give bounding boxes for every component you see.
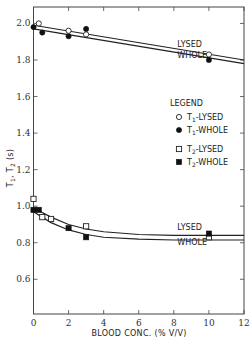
y-axis-label-text: T1, T2 (s) <box>6 149 16 188</box>
fit-line <box>34 25 245 60</box>
legend-marker <box>176 159 181 164</box>
data-point <box>31 25 36 30</box>
y-tick-label: 1.0 <box>16 201 31 211</box>
data-point <box>31 196 36 201</box>
data-point <box>84 32 89 37</box>
data-point <box>48 216 53 221</box>
y-tick-label: 2.0 <box>16 18 31 28</box>
legend-title: LEGEND <box>170 99 203 108</box>
legend: LEGENDT1-LYSEDT1-WHOLET2-LYSEDT2-WHOLE <box>170 99 228 168</box>
data-point <box>206 52 211 57</box>
fit-line <box>34 208 245 235</box>
y-tick-label: 1.2 <box>16 165 30 175</box>
x-tick-label: 10 <box>203 318 215 328</box>
legend-marker <box>176 114 181 119</box>
data-point <box>206 57 211 62</box>
line-annotation: LYSED <box>177 223 202 232</box>
x-tick-label: 12 <box>238 318 249 328</box>
x-tick-label: 0 <box>31 318 37 328</box>
data-point <box>31 207 36 212</box>
data-point <box>36 207 41 212</box>
y-tick-label: 1.4 <box>16 128 31 138</box>
y-tick-label: 0.6 <box>16 274 31 284</box>
x-tick-label: 6 <box>136 318 142 328</box>
data-point <box>66 34 71 39</box>
data-point <box>66 28 71 33</box>
chart: 0246810120.60.81.01.21.41.61.82.0 LYSEDW… <box>0 0 251 340</box>
line-annotation: WHOLE <box>177 51 207 60</box>
line-annotation: WHOLE <box>177 238 207 247</box>
x-tick-label: 4 <box>101 318 107 328</box>
legend-label: T1-WHOLE <box>186 126 228 136</box>
y-axis-label: T1, T2 (s) <box>6 149 16 188</box>
data-point <box>84 235 89 240</box>
data-point <box>84 224 89 229</box>
x-tick-label: 8 <box>171 318 177 328</box>
legend-label: T2-WHOLE <box>186 158 228 168</box>
data-point <box>66 226 71 231</box>
y-tick-label: 1.6 <box>16 92 31 102</box>
legend-marker <box>176 127 181 132</box>
x-axis-label: BLOOD CONC. (% V/V) <box>91 329 186 338</box>
y-tick-label: 0.8 <box>16 238 31 248</box>
data-point <box>40 215 45 220</box>
data-point <box>40 30 45 35</box>
legend-label: T2-LYSED <box>186 145 223 155</box>
data-point <box>36 21 41 26</box>
y-tick-label: 1.8 <box>16 55 31 65</box>
line-annotation: LYSED <box>177 40 202 49</box>
fit-line <box>34 29 245 64</box>
x-tick-label: 2 <box>66 318 72 328</box>
annotations: LYSEDWHOLELYSEDWHOLE <box>177 40 207 246</box>
legend-label: T1-LYSED <box>186 113 223 123</box>
data-point <box>84 26 89 31</box>
data-point <box>206 231 211 236</box>
legend-marker <box>176 146 181 151</box>
